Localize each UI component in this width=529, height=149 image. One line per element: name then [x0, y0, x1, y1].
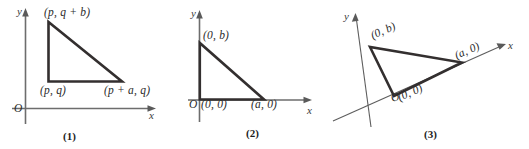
panel-1-vertex-label-top: (p, q + b) [44, 7, 90, 19]
panel-2-triangle-path [200, 43, 264, 100]
panel-1-x-axis-label: x [149, 110, 154, 121]
panel-3-x-axis-label: x [508, 40, 513, 51]
panel-1-vertex-label-bottom-left: (p, q) [40, 85, 66, 97]
panel-2-vertex-label-top: (0, b) [203, 30, 229, 42]
panel-3-caption: (3) [424, 129, 437, 140]
panel-1-y-axis-arrowhead [22, 8, 29, 17]
panel-2-x-axis-arrowhead [304, 97, 313, 104]
panel-1-caption: (1) [63, 131, 76, 142]
panel-1-vertex-label-bottom-right: (p + a, q) [104, 85, 150, 97]
figure-root: y x O (p, q + b) (p, q) (p + a, q) (1) y… [0, 0, 529, 149]
panel-3-y-axis-arrowhead [352, 13, 359, 22]
panel-2-x-axis-label: x [307, 105, 312, 116]
panel-1-axes [12, 8, 156, 124]
panel-3-x-axis-arrowhead [497, 43, 507, 50]
panel-2-vertex-label-origin-point: (0, 0) [201, 99, 227, 111]
panel-2-triangle [200, 43, 264, 100]
panel-1-origin-label: O [14, 103, 23, 115]
figure-vector-layer [0, 0, 529, 149]
panel-2-vertex-label-bottom-right: (a, 0) [251, 99, 277, 111]
panel-1-triangle-path [49, 22, 123, 82]
panel-1-y-axis-label: y [17, 6, 22, 17]
panel-3-y-axis-label: y [344, 11, 349, 22]
panel-2-caption: (2) [246, 128, 259, 139]
panel-2-y-axis-arrowhead [196, 10, 203, 19]
panel-3-axes [333, 13, 506, 127]
panel-2-origin-label: O [189, 99, 198, 111]
panel-3-y-axis [357, 20, 372, 127]
panel-2-y-axis-label: y [191, 8, 196, 19]
panel-1-triangle [49, 22, 123, 82]
